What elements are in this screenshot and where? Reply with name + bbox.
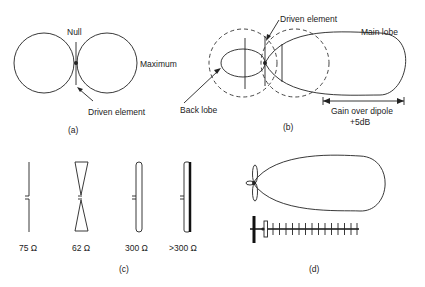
label-300-ohm: 300 Ω — [125, 243, 148, 253]
caption-d: (d) — [309, 264, 320, 274]
back-lobe — [221, 49, 265, 77]
main-lobe — [265, 32, 406, 95]
antenna-diagram: Null Maximum Driven element (a) Driven e… — [0, 0, 425, 287]
label-gain: Gain over dipole — [331, 106, 393, 116]
panel-c: 75 Ω 62 Ω 300 Ω >300 Ω (c) — [19, 162, 197, 274]
panel-a: Null Maximum Driven element (a) — [14, 27, 177, 135]
label-driven-b: Driven element — [280, 14, 338, 24]
arrow-back-lobe — [184, 71, 218, 103]
caption-a: (a) — [68, 125, 79, 135]
lobe-right — [77, 33, 137, 93]
element-folded-dipole-unequal: >300 Ω — [169, 162, 197, 253]
gain-arrowhead-right — [397, 98, 404, 104]
feed-point-b — [263, 61, 267, 65]
arrowhead-back-lobe — [214, 68, 221, 74]
feed-point — [74, 61, 78, 65]
label-main-lobe: Main lobe — [361, 27, 398, 37]
panel-d: (d) — [246, 155, 385, 274]
lobe-left — [14, 33, 74, 93]
caption-c: (c) — [119, 264, 129, 274]
label-back-lobe: Back lobe — [180, 105, 218, 115]
label-gain-db: +5dB — [350, 117, 370, 127]
label-null: Null — [67, 27, 82, 37]
panel-b: Driven element Main lobe Back lobe Gain … — [180, 14, 406, 132]
label-driven-a: Driven element — [88, 107, 146, 117]
element-folded-dipole: 300 Ω — [125, 162, 148, 253]
element-bow-tie: 62 Ω — [72, 162, 90, 253]
label-maximum: Maximum — [140, 59, 177, 69]
label-62-ohm: 62 Ω — [72, 243, 90, 253]
gain-arrowhead-left — [323, 98, 330, 104]
caption-b: (b) — [283, 122, 294, 132]
yagi-array — [250, 216, 359, 243]
element-thin-dipole: 75 Ω — [19, 162, 37, 253]
label-75-ohm: 75 Ω — [19, 243, 37, 253]
dashed-circle-right — [261, 29, 329, 97]
arrow-driven-b — [268, 20, 279, 38]
main-lobe-d — [253, 155, 385, 211]
label-over-300-ohm: >300 Ω — [169, 243, 197, 253]
